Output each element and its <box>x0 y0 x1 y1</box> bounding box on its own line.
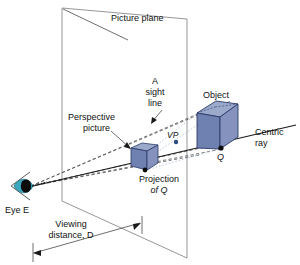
label-centric-ray-2: ray <box>255 138 268 148</box>
eye-icon <box>11 172 47 200</box>
label-projection-of-q-2: of Q <box>128 185 190 195</box>
label-point-q: Q <box>217 152 224 162</box>
label-picture-plane: Picture plane <box>111 13 164 23</box>
object-cube <box>197 101 238 151</box>
label-object: Object <box>203 90 229 100</box>
dim-arrowhead-left-icon <box>33 250 41 256</box>
label-sight-line-2: sight <box>138 87 172 97</box>
label-perspective-picture-2: picture <box>68 123 110 133</box>
point-q-dot-icon <box>218 145 223 150</box>
perspective-diagram: Picture plane A sight line Perspective p… <box>0 0 300 265</box>
label-viewing-distance-2: distance, D <box>36 230 106 240</box>
object-cube-front-face <box>197 113 220 149</box>
label-perspective-picture-1: Perspective <box>68 112 115 122</box>
image-cube-front-face <box>131 148 147 170</box>
label-viewing-distance-1: Viewing <box>40 219 102 229</box>
label-sight-line-3: line <box>138 98 172 108</box>
label-eye-e: Eye E <box>5 205 29 215</box>
label-sight-line-1: A <box>138 76 172 86</box>
label-projection-of-q-1: Projection <box>128 174 190 184</box>
label-vanishing-point: VP <box>167 130 178 140</box>
label-centric-ray-1: Centric <box>255 127 284 137</box>
vanishing-point-marker <box>174 140 178 144</box>
eye-pupil-shape <box>21 179 31 192</box>
vp-dot-icon <box>174 140 178 144</box>
projection-of-q-dot-icon <box>143 168 148 173</box>
